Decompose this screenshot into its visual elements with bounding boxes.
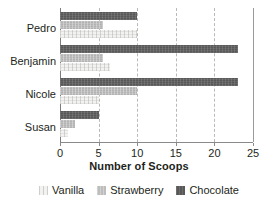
tick-mark-15 (176, 143, 177, 146)
legend-label-chocolate: Chocolate (189, 184, 239, 196)
x-axis-tick-labels: 0 5 10 15 20 25 (0, 143, 278, 161)
vanilla-swatch (39, 186, 48, 195)
legend-item-vanilla: Vanilla (39, 184, 84, 196)
bar-group-pedro (60, 12, 253, 42)
bar-pedro-strawberry (60, 21, 103, 29)
legend-item-chocolate: Chocolate (176, 184, 239, 196)
y-axis-label-susan: Susan (0, 121, 56, 133)
x-tick-10: 10 (125, 147, 149, 159)
legend-label-strawberry: Strawberry (110, 184, 163, 196)
bar-nicole-vanilla (60, 96, 99, 104)
y-axis-category-labels: Pedro Benjamin Nicole Susan (0, 8, 56, 142)
x-tick-5: 5 (87, 147, 111, 159)
bar-benjamin-chocolate (60, 45, 238, 53)
bar-group-nicole (60, 78, 253, 108)
bar-group-susan (60, 111, 253, 141)
tick-mark-10 (137, 143, 138, 146)
bar-susan-vanilla (60, 129, 68, 137)
tick-mark-5 (99, 143, 100, 146)
y-axis-label-pedro: Pedro (0, 22, 56, 34)
x-tick-20: 20 (202, 147, 226, 159)
x-tick-0: 0 (48, 147, 72, 159)
bar-nicole-strawberry (60, 87, 137, 95)
bar-group-benjamin (60, 45, 253, 75)
tick-mark-20 (214, 143, 215, 146)
tick-mark-0 (60, 143, 61, 146)
x-tick-25: 25 (241, 147, 265, 159)
bar-benjamin-vanilla (60, 63, 110, 71)
bar-susan-strawberry (60, 120, 75, 128)
ice-cream-scoops-bar-chart: Pedro Benjamin Nicole Susan (0, 0, 278, 204)
chart-legend: Vanilla Strawberry Chocolate (0, 180, 278, 200)
bar-pedro-chocolate (60, 12, 137, 20)
plot-area (60, 8, 253, 142)
x-axis-title: Number of Scoops (0, 160, 278, 172)
y-axis-label-benjamin: Benjamin (0, 55, 56, 67)
bar-nicole-chocolate (60, 78, 238, 86)
tick-mark-25 (253, 143, 254, 146)
strawberry-swatch (97, 186, 106, 195)
legend-item-strawberry: Strawberry (97, 184, 163, 196)
x-tick-15: 15 (164, 147, 188, 159)
legend-label-vanilla: Vanilla (52, 184, 84, 196)
bar-susan-chocolate (60, 111, 99, 119)
bar-pedro-vanilla (60, 30, 137, 38)
chocolate-swatch (176, 186, 185, 195)
gridline-25 (253, 8, 254, 142)
bar-benjamin-strawberry (60, 54, 103, 62)
y-axis-label-nicole: Nicole (0, 88, 56, 100)
